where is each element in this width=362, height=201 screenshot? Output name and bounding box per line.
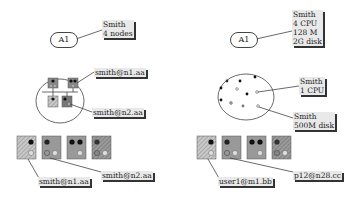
node-icon [17, 136, 36, 159]
host-label: smith@n1.aa [38, 177, 90, 186]
connector-line [256, 31, 292, 39]
resource-pool [218, 74, 274, 120]
node-icon [67, 136, 86, 159]
disk-resource-label: Smith 500M disk [293, 112, 335, 130]
connector-line [76, 30, 102, 39]
connector-line [230, 158, 293, 172]
allocation-pill: A1 [50, 32, 78, 48]
connector-line [77, 72, 94, 83]
node-row-right [197, 136, 291, 159]
host-label: smith@n2.aa [101, 171, 153, 180]
host-label: user1@m1.bb [218, 177, 273, 186]
node-icon [92, 136, 111, 159]
user-resources-label: Smith 4 CPU 128 M 2G disk [292, 10, 323, 46]
allocation-pill: A1 [230, 32, 258, 48]
cluster-group [36, 78, 84, 123]
node-row-left [17, 136, 111, 159]
node-icon [62, 96, 72, 107]
user-nodes-label: Smith 4 nodes [102, 20, 134, 38]
node-icon [42, 136, 61, 159]
connector-line [50, 158, 101, 172]
cpu-resource-label: Smith 1 CPU [299, 77, 325, 95]
node-icon [247, 136, 266, 159]
host-label: smith@n1.aa [94, 68, 146, 77]
node-icon [197, 136, 216, 159]
host-label: smith@n2.aa [92, 108, 144, 117]
host-label: p12@n28.cc [293, 171, 342, 180]
node-icon [272, 136, 291, 159]
node-icon [222, 136, 241, 159]
